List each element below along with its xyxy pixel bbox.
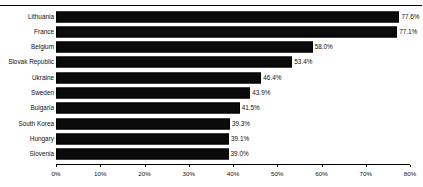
bar-value-label: 53.4% <box>294 59 312 65</box>
bar-track <box>56 149 229 160</box>
bar-value-label: 58.0% <box>315 44 333 50</box>
bar-row: Bulgaria41.5% <box>0 101 423 116</box>
category-label: Slovak Republic <box>8 59 54 65</box>
bar-value-label: 39.0% <box>231 151 249 157</box>
bar-row: Sweden43.9% <box>0 86 423 101</box>
x-tick-label: 70% <box>360 171 372 177</box>
bar-row: Slovenia39.0% <box>0 147 423 162</box>
x-tick-mark <box>100 165 101 167</box>
x-tick-label: 0% <box>52 171 61 177</box>
x-tick-mark <box>189 165 190 167</box>
x-tick-mark <box>233 165 234 167</box>
bar-value-label: 43.9% <box>252 90 270 96</box>
x-tick-label: 80% <box>404 171 416 177</box>
bar-fill <box>56 103 240 114</box>
bar-chart: Installed electricity generation capacit… <box>0 0 423 187</box>
bar-track <box>56 103 240 114</box>
bar-row: France77.1% <box>0 24 423 39</box>
bar-value-label: 39.1% <box>231 136 249 142</box>
category-label: South Korea <box>18 120 54 126</box>
bar-row: Ukraine46.4% <box>0 70 423 85</box>
x-tick-mark <box>410 165 411 167</box>
bar-value-label: 39.3% <box>232 120 250 126</box>
bar-fill <box>56 149 229 160</box>
bar-track <box>56 42 313 53</box>
bar-track <box>56 57 292 68</box>
bar-fill <box>56 88 250 99</box>
category-label: Bulgaria <box>31 105 54 111</box>
bar-track <box>56 118 230 129</box>
bar-row: South Korea39.3% <box>0 116 423 131</box>
category-label: Hungary <box>30 136 54 142</box>
bar-track <box>56 11 399 22</box>
bar-row: Slovak Republic53.4% <box>0 55 423 70</box>
x-tick-mark <box>322 165 323 167</box>
bar-track <box>56 88 250 99</box>
x-tick-label: 50% <box>271 171 283 177</box>
bar-value-label: 77.6% <box>401 13 419 19</box>
bar-track <box>56 72 261 83</box>
x-tick-label: 10% <box>94 171 106 177</box>
category-label: Sweden <box>31 90 54 96</box>
category-label: France <box>34 29 54 35</box>
bar-value-label: 46.4% <box>263 74 281 80</box>
bar-fill <box>56 72 261 83</box>
bar-rows: Lithuania77.6%France77.1%Belgium58.0%Slo… <box>0 0 423 187</box>
category-label: Slovenia <box>29 151 54 157</box>
category-label: Lithuania <box>28 13 54 19</box>
x-tick-label: 20% <box>138 171 150 177</box>
bar-fill <box>56 11 399 22</box>
bar-row: Lithuania77.6% <box>0 9 423 24</box>
x-tick-mark <box>56 165 57 167</box>
x-tick-label: 30% <box>183 171 195 177</box>
bar-track <box>56 133 229 144</box>
bar-fill <box>56 42 313 53</box>
bar-value-label: 41.5% <box>242 105 260 111</box>
bar-fill <box>56 57 292 68</box>
category-label: Belgium <box>31 44 54 50</box>
bar-fill <box>56 133 229 144</box>
bar-track <box>56 26 397 37</box>
bar-row: Hungary39.1% <box>0 131 423 146</box>
category-label: Ukraine <box>32 74 54 80</box>
x-tick-label: 60% <box>315 171 327 177</box>
bar-fill <box>56 118 230 129</box>
x-axis-ticks: 0%10%20%30%40%50%60%70%80% <box>0 165 423 187</box>
bar-row: Belgium58.0% <box>0 40 423 55</box>
x-tick-mark <box>366 165 367 167</box>
x-tick-label: 40% <box>227 171 239 177</box>
bar-fill <box>56 26 397 37</box>
bar-value-label: 77.1% <box>399 29 417 35</box>
x-tick-mark <box>277 165 278 167</box>
x-tick-mark <box>145 165 146 167</box>
